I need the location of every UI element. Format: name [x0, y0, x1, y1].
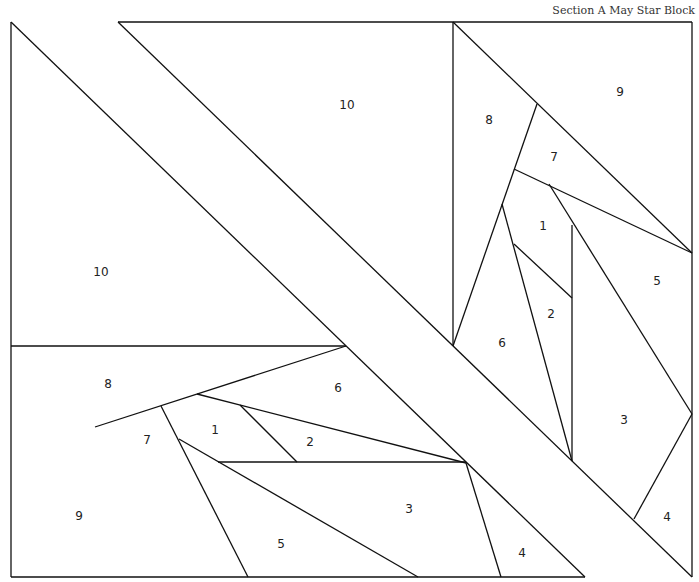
label-6-bottom: 6 [334, 381, 342, 395]
label-3-bottom: 3 [405, 502, 413, 516]
label-3-right: 3 [620, 413, 628, 427]
label-7-bottom: 7 [143, 433, 151, 447]
label-1-bottom: 1 [211, 423, 219, 437]
label-2-bottom: 2 [306, 435, 314, 449]
label-10-top: 10 [339, 98, 354, 112]
label-8-right: 8 [485, 113, 493, 127]
label-9-right: 9 [616, 85, 624, 99]
label-10-left: 10 [93, 265, 108, 279]
label-5-right: 5 [653, 274, 661, 288]
label-9-bottom: 9 [75, 509, 83, 523]
label-4-right: 4 [663, 510, 671, 524]
label-1-right: 1 [539, 219, 547, 233]
label-4-bottom: 4 [518, 546, 526, 560]
label-5-bottom: 5 [277, 537, 285, 551]
quilt-pattern-diagram: 10 10 9 8 7 1 5 2 6 3 4 8 6 7 1 2 9 3 5 … [0, 0, 699, 582]
label-2-right: 2 [547, 307, 555, 321]
label-8-bottom: 8 [104, 377, 112, 391]
label-6-right: 6 [498, 336, 506, 350]
label-7-right: 7 [550, 150, 558, 164]
piece-labels: 10 10 9 8 7 1 5 2 6 3 4 8 6 7 1 2 9 3 5 … [75, 85, 671, 560]
